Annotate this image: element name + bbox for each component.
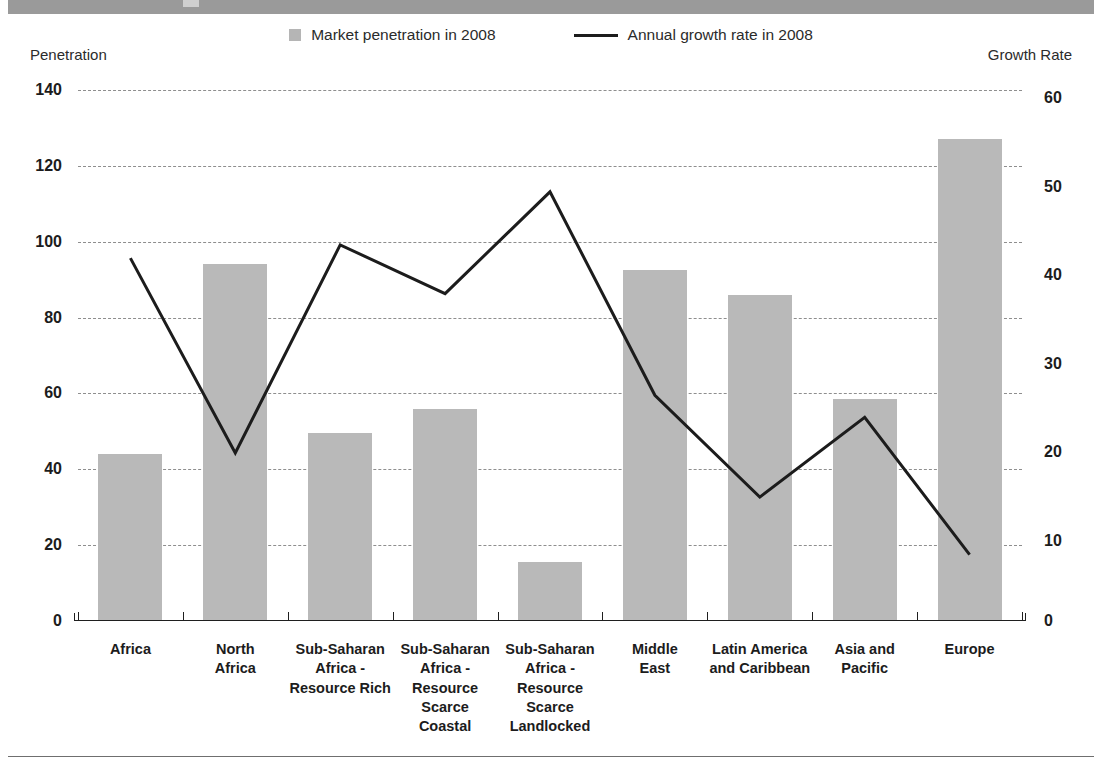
left-axis-tick-label: 120 <box>10 158 62 174</box>
legend-bar-swatch-icon <box>289 29 301 41</box>
x-axis-line <box>74 620 1026 621</box>
line-series <box>78 90 1022 621</box>
right-axis-tick-label: 10 <box>1044 533 1096 549</box>
growth-rate-polyline <box>130 192 969 555</box>
x-axis-labels: AfricaNorthAfricaSub-SaharanAfrica -Reso… <box>78 640 1022 745</box>
legend-bar-label: Market penetration in 2008 <box>311 26 495 44</box>
x-axis-label: Latin Americaand Caribbean <box>707 640 812 679</box>
left-axis-tick-label: 40 <box>10 461 62 477</box>
left-axis-tick-label: 80 <box>10 310 62 326</box>
right-axis-caption: Growth Rate <box>988 46 1072 63</box>
x-axis-label: Sub-SaharanAfrica -Resource Rich <box>288 640 393 698</box>
left-axis-tick-label: 20 <box>10 537 62 553</box>
footer-rule <box>8 756 1094 757</box>
left-axis-tick-label: 140 <box>10 82 62 98</box>
chart-legend: Market penetration in 2008 Annual growth… <box>0 24 1102 46</box>
x-axis-label: Africa <box>78 640 183 659</box>
left-axis-tick-label: 60 <box>10 385 62 401</box>
x-axis-left-cap <box>74 613 75 621</box>
right-axis-tick-label: 30 <box>1044 356 1096 372</box>
x-axis-label: Sub-SaharanAfrica -ResourceScarceLandloc… <box>498 640 603 736</box>
plot-area: 020406080100120140 0102030405060 <box>78 90 1022 621</box>
legend-line-swatch-icon <box>574 34 618 37</box>
x-axis-label: Asia andPacific <box>812 640 917 679</box>
chart-page: Market penetration in 2008 Annual growth… <box>0 0 1102 767</box>
legend-line-label: Annual growth rate in 2008 <box>628 26 813 44</box>
legend-item-line: Annual growth rate in 2008 <box>574 26 813 44</box>
x-axis-label: NorthAfrica <box>183 640 288 679</box>
title-band-notch <box>183 0 199 7</box>
left-axis-caption: Penetration <box>30 46 107 63</box>
left-axis-tick-label: 0 <box>10 613 62 629</box>
x-axis-label: Sub-SaharanAfrica -ResourceScarceCoastal <box>393 640 498 736</box>
x-axis-label: Europe <box>917 640 1022 659</box>
right-axis-tick-label: 60 <box>1044 90 1096 106</box>
title-band <box>8 0 1094 14</box>
left-axis-tick-label: 100 <box>10 234 62 250</box>
x-axis-right-cap <box>1025 613 1026 621</box>
right-axis-tick-label: 50 <box>1044 179 1096 195</box>
legend-item-bar: Market penetration in 2008 <box>289 26 495 44</box>
right-axis-tick-label: 20 <box>1044 444 1096 460</box>
x-axis-label: MiddleEast <box>602 640 707 679</box>
right-axis-tick-label: 0 <box>1044 613 1096 629</box>
right-axis-tick-label: 40 <box>1044 267 1096 283</box>
